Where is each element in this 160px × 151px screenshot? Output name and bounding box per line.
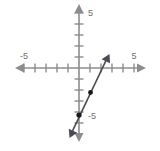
plotted-point-second (88, 90, 93, 95)
y-axis-label-positive-five: 5 (88, 8, 93, 18)
y-axis-label-negative-five: -5 (88, 111, 96, 121)
coordinate-graph-figure: -5 5 5 -5 (0, 0, 160, 151)
x-axis-label-negative-five: -5 (20, 51, 28, 61)
x-axis: -5 5 (15, 51, 146, 73)
y-axis-down-arrow-icon (75, 133, 84, 142)
x-axis-left-arrow-icon (15, 64, 24, 73)
graph-canvas: -5 5 5 -5 (0, 0, 160, 151)
x-axis-label-positive-five: 5 (131, 51, 136, 61)
y-axis-up-arrow-icon (75, 4, 84, 13)
plotted-point-y-intercept (76, 112, 81, 117)
x-axis-right-arrow-icon (137, 64, 146, 73)
